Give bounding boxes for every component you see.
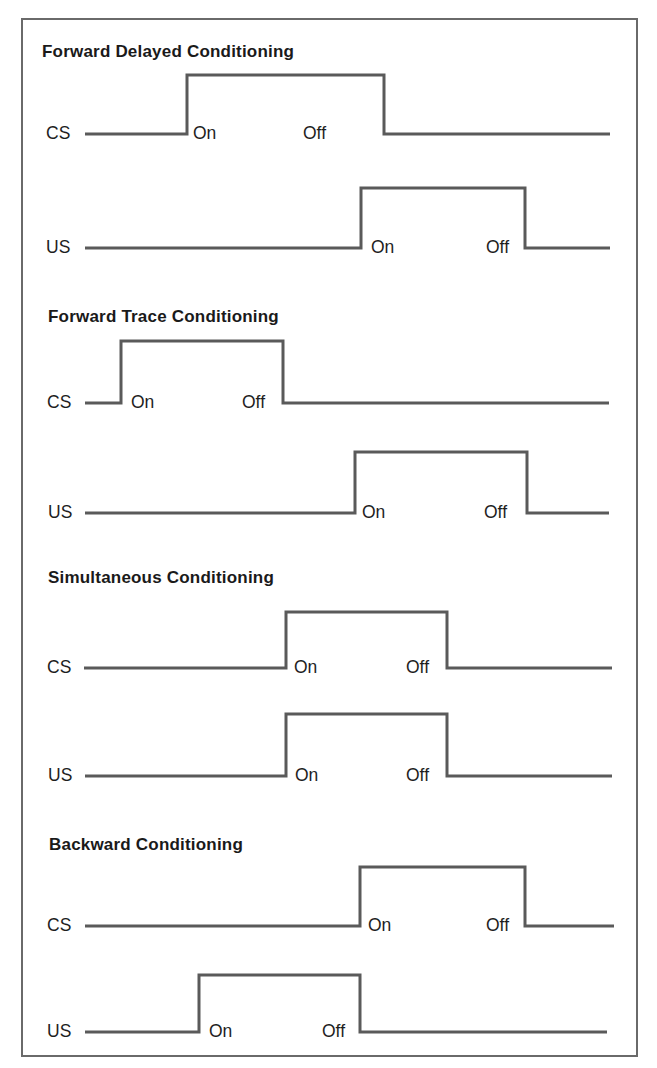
row-label-cs: CS <box>47 657 71 678</box>
row-label-cs: CS <box>47 915 71 936</box>
row-label-us: US <box>46 237 70 258</box>
on-label: On <box>209 1021 232 1042</box>
on-label: On <box>295 765 318 786</box>
off-label: Off <box>303 123 326 144</box>
us-waveform <box>85 975 607 1032</box>
on-label: On <box>131 392 154 413</box>
us-waveform <box>85 188 610 248</box>
off-label: Off <box>484 502 507 523</box>
section-title-forward-trace: Forward Trace Conditioning <box>48 307 279 327</box>
off-label: Off <box>486 915 509 936</box>
row-label-us: US <box>47 1021 71 1042</box>
off-label: Off <box>406 765 429 786</box>
row-label-cs: CS <box>46 123 70 144</box>
off-label: Off <box>486 237 509 258</box>
waveform-group <box>84 75 614 1032</box>
section-title-simultaneous: Simultaneous Conditioning <box>48 568 274 588</box>
row-label-us: US <box>48 502 72 523</box>
us-waveform <box>85 714 612 776</box>
off-label: Off <box>406 657 429 678</box>
on-label: On <box>371 237 394 258</box>
cs-waveform <box>84 612 612 668</box>
on-label: On <box>368 915 391 936</box>
timing-diagram-canvas <box>0 0 657 1068</box>
us-waveform <box>85 452 609 513</box>
row-label-us: US <box>48 765 72 786</box>
section-title-forward-delayed: Forward Delayed Conditioning <box>42 42 294 62</box>
cs-waveform <box>85 75 610 134</box>
cs-waveform <box>85 341 609 403</box>
on-label: On <box>362 502 385 523</box>
on-label: On <box>193 123 216 144</box>
row-label-cs: CS <box>47 392 71 413</box>
cs-waveform <box>85 867 614 926</box>
on-label: On <box>294 657 317 678</box>
off-label: Off <box>322 1021 345 1042</box>
off-label: Off <box>242 392 265 413</box>
section-title-backward: Backward Conditioning <box>49 835 243 855</box>
